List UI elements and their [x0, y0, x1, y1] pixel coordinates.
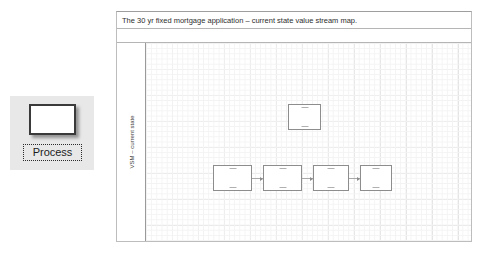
node-top[interactable]: [288, 104, 321, 130]
connector-1-2[interactable]: [252, 178, 263, 179]
diagram-title-band: The 30 yr fixed mortgage application – c…: [117, 12, 471, 29]
connector-3-4[interactable]: [349, 178, 360, 179]
connector-2-3[interactable]: [302, 178, 313, 179]
node-3[interactable]: [313, 165, 349, 191]
node-1[interactable]: [213, 165, 252, 191]
node-2[interactable]: [263, 165, 302, 191]
stencil-palette: Process: [10, 96, 94, 170]
node-4[interactable]: [360, 165, 392, 191]
diagram-body: VSM – current state: [117, 43, 471, 241]
diagram-title: The 30 yr fixed mortgage application – c…: [117, 16, 357, 25]
stencil-process-shape[interactable]: [29, 104, 76, 135]
swimlane-label: VSM – current state: [128, 115, 135, 168]
diagram-subtitle-band: [117, 29, 471, 43]
swimlane-label-column: VSM – current state: [118, 43, 146, 241]
diagram-frame: The 30 yr fixed mortgage application – c…: [116, 11, 472, 242]
diagram-canvas[interactable]: [146, 43, 471, 241]
stencil-process-label-box[interactable]: Process: [23, 144, 82, 161]
stencil-process-label: Process: [33, 147, 73, 158]
